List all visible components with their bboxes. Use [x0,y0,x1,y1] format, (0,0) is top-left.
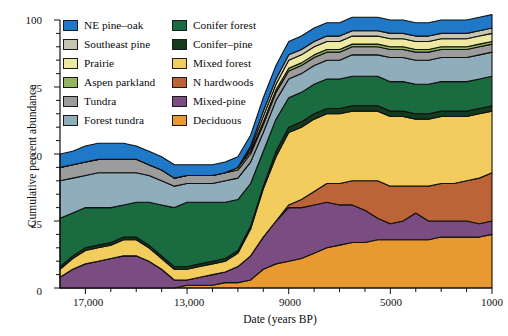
legend-item: Prairie [63,54,155,73]
legend-item-label: NE pine–oak [84,20,143,31]
legend-item: NE pine–oak [63,16,155,35]
legend-swatch-icon [63,39,78,50]
legend-item-label: Conifer forest [193,20,256,31]
legend-item-label: Forest tundra [84,115,144,126]
legend-swatch-icon [172,115,187,126]
legend-swatch-icon [172,58,187,69]
x-tick-marks [85,288,492,294]
legend-item: Southeast pine [63,35,155,54]
legend-swatch-icon [63,115,78,126]
y-tick-marks [54,20,60,288]
legend-item-label: Conifer–pine [193,39,253,50]
legend-item-label: Deciduous [193,115,241,126]
legend-item-label: Mixed-pine [193,96,246,107]
legend-swatch-icon [172,77,187,88]
legend-item-label: Tundra [84,96,116,107]
legend-item: Aspen parkland [63,73,155,92]
legend-column-2: Conifer forestConifer–pineMixed forestN … [172,16,256,130]
legend-item: Mixed forest [172,54,256,73]
legend-item: Mixed-pine [172,92,256,111]
legend-item: Forest tundra [63,111,155,130]
legend-item-label: Southeast pine [84,39,150,50]
legend-item-label: Prairie [84,58,114,69]
legend-item: Deciduous [172,111,256,130]
legend-swatch-icon [63,20,78,31]
legend-item: Tundra [63,92,155,111]
legend-swatch-icon [172,96,187,107]
legend-column-1: NE pine–oakSoutheast pinePrairieAspen pa… [63,16,155,130]
legend-item-label: Aspen parkland [84,77,155,88]
legend-swatch-icon [172,39,187,50]
legend-item-label: N hardwoods [193,77,254,88]
legend-swatch-icon [172,20,187,31]
legend-item: Conifer–pine [172,35,256,54]
legend-swatch-icon [63,58,78,69]
legend-item: Conifer forest [172,16,256,35]
legend-swatch-icon [63,96,78,107]
legend-swatch-icon [63,77,78,88]
legend-item: N hardwoods [172,73,256,92]
legend-item-label: Mixed forest [193,58,251,69]
